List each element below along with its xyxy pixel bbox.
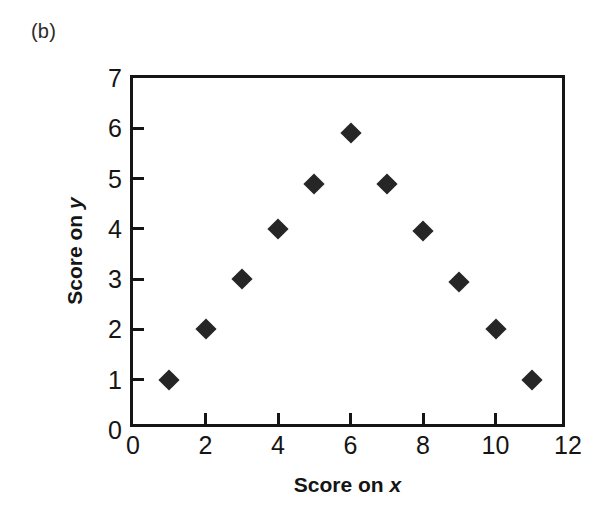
- x-axis-title: Score on x: [130, 473, 565, 497]
- y-axis-tick-label: 1: [108, 367, 122, 392]
- data-point-marker: [412, 221, 433, 242]
- figure-panel: (b) 01234567024681012 Score on x Score o…: [0, 0, 603, 514]
- x-axis-tick-label: 2: [199, 433, 213, 458]
- plot-area: 01234567024681012: [133, 78, 562, 424]
- x-axis-tick-label: 0: [126, 433, 140, 458]
- x-axis-tick-label: 8: [416, 433, 430, 458]
- x-axis-tick: [494, 413, 497, 424]
- data-point-marker: [449, 271, 470, 292]
- data-point-marker: [304, 173, 325, 194]
- y-axis-title: Score on y: [58, 75, 92, 427]
- x-axis-tick: [422, 413, 425, 424]
- y-axis-tick-label: 3: [108, 267, 122, 292]
- y-axis-tick-label: 6: [108, 116, 122, 141]
- y-axis-tick-label: 5: [108, 166, 122, 191]
- x-axis-tick-label: 10: [482, 433, 510, 458]
- x-axis-tick: [277, 413, 280, 424]
- y-axis-tick: [133, 328, 144, 331]
- y-axis-title-text: Score on: [63, 209, 86, 305]
- panel-label: (b): [31, 20, 56, 43]
- data-point-marker: [376, 173, 397, 194]
- data-point-marker: [340, 123, 361, 144]
- data-point-marker: [267, 218, 288, 239]
- y-axis-tick-label: 2: [108, 317, 122, 342]
- y-axis-tick-label: 4: [108, 216, 122, 241]
- data-point-marker: [159, 369, 180, 390]
- y-axis-tick-label: 0: [108, 418, 122, 443]
- y-axis-tick: [133, 227, 144, 230]
- y-axis-tick: [133, 177, 144, 180]
- x-axis-tick: [204, 413, 207, 424]
- y-axis-tick: [133, 278, 144, 281]
- x-axis-tick-label: 6: [344, 433, 358, 458]
- y-axis-tick: [133, 378, 144, 381]
- data-point-marker: [195, 319, 216, 340]
- y-axis-title-variable: y: [63, 197, 86, 209]
- x-axis-title-text: Score on: [294, 473, 390, 496]
- y-axis-tick-label: 7: [108, 66, 122, 91]
- data-point-marker: [521, 369, 542, 390]
- plot-frame: 01234567024681012: [130, 75, 565, 427]
- x-axis-tick: [349, 413, 352, 424]
- x-axis-tick-label: 4: [271, 433, 285, 458]
- x-axis-tick-label: 12: [554, 433, 582, 458]
- data-point-marker: [485, 319, 506, 340]
- data-point-marker: [231, 269, 252, 290]
- y-axis-tick: [133, 127, 144, 130]
- x-axis-title-variable: x: [390, 473, 402, 496]
